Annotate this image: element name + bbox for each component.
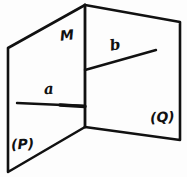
plane-q-label: (Q) — [150, 109, 175, 124]
line-a-thickening — [60, 105, 85, 107]
line-a-label: a — [43, 82, 54, 98]
point-m-label: M — [59, 27, 74, 42]
geometry-figure: M b a (P) (Q) — [0, 0, 187, 177]
plane-p-label: (P) — [11, 136, 35, 151]
